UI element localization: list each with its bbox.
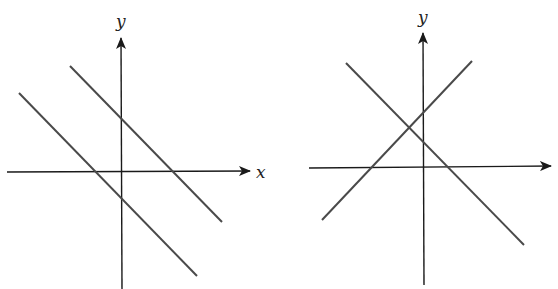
y-axis: [121, 38, 122, 289]
left-panel: x y: [7, 11, 266, 289]
line-falling: [346, 63, 524, 245]
y-axis: [423, 33, 424, 285]
diagram-canvas: x y y: [0, 0, 558, 289]
line-upper: [70, 66, 222, 222]
right-panel: y: [309, 7, 551, 285]
x-axis: [309, 166, 551, 168]
line-lower: [19, 93, 197, 276]
line-rising: [322, 61, 472, 220]
y-axis-label: y: [417, 7, 428, 27]
x-axis: [7, 171, 250, 172]
y-axis-label: y: [115, 11, 126, 31]
x-axis-label: x: [256, 162, 266, 182]
